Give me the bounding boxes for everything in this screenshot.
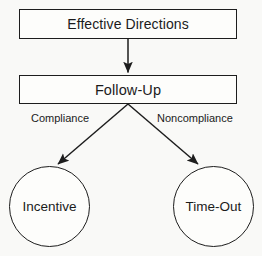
node-time-out-label: Time-Out [186, 199, 242, 214]
node-effective-directions: Effective Directions [19, 9, 237, 39]
edge-label-noncompliance: Noncompliance [157, 112, 233, 124]
node-incentive: Incentive [9, 166, 90, 247]
node-follow-up: Follow-Up [19, 75, 237, 104]
node-follow-up-label: Follow-Up [95, 82, 161, 98]
node-incentive-label: Incentive [22, 199, 76, 214]
node-time-out: Time-Out [173, 166, 254, 247]
edge-label-compliance: Compliance [31, 112, 89, 124]
node-effective-directions-label: Effective Directions [67, 16, 189, 32]
flowchart-diagram: Effective Directions Follow-Up Complianc… [0, 0, 262, 256]
